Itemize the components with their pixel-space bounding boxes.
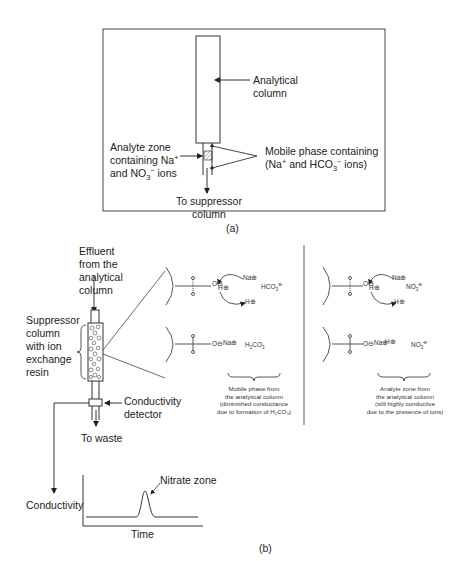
label-line: resin xyxy=(26,366,80,379)
chem-na: Na⊕ xyxy=(392,274,406,282)
subscript: 3 xyxy=(421,345,424,350)
mobile-phase-pointer xyxy=(211,145,257,170)
caption-line: (still highly conductive xyxy=(359,400,451,408)
label-line: Analyte zone xyxy=(110,141,179,154)
text: ions xyxy=(155,167,177,179)
signal-line xyxy=(54,403,89,493)
subscript: 3 xyxy=(262,345,265,350)
chem-na: Na⊕ xyxy=(243,274,257,282)
mobile-phase-label: Mobile phase containing (Na+ and HCO3− i… xyxy=(265,145,378,171)
chem-h-out: H⊕ xyxy=(245,298,256,306)
plot-ylabel: Conductivity xyxy=(26,499,83,512)
label-line: exchange xyxy=(26,353,80,366)
text: HCO xyxy=(261,283,275,290)
chem-h2co3: H2CO3 xyxy=(245,341,265,348)
subscript: 3 xyxy=(416,287,419,292)
caption-line: Mobile phase from xyxy=(214,385,294,393)
resin-structures xyxy=(166,267,430,381)
text: and NO xyxy=(110,167,146,179)
text: NO xyxy=(411,341,421,348)
label-line: from the xyxy=(79,258,123,271)
caption-line: (diminished conductance xyxy=(214,400,294,408)
label-line: column xyxy=(176,208,242,221)
suppressor-column xyxy=(88,276,103,426)
chem-no3: NO3⊖ xyxy=(406,283,422,290)
label-line: column xyxy=(26,327,80,340)
text: ions) xyxy=(341,158,367,170)
to-waste-label: To waste xyxy=(81,432,122,445)
analyte-caption: Analyte zone from the analytical column … xyxy=(359,385,451,415)
label-line: column xyxy=(253,87,298,100)
caption-a: (a) xyxy=(226,222,239,235)
chem-o-minus: O⊖ xyxy=(363,340,374,348)
caption-b: (b) xyxy=(259,542,272,555)
label-line: Analytical xyxy=(253,74,298,87)
label-line: column xyxy=(79,284,123,297)
superscript: ⊖ xyxy=(423,340,427,345)
label-line: and NO3− ions xyxy=(110,167,179,180)
peak-label: Nitrate zone xyxy=(160,474,217,487)
caption-line: the analytical column xyxy=(359,393,451,401)
label-line: To suppressor xyxy=(176,195,242,208)
chem-na: Na⊕ xyxy=(223,339,237,347)
text: and HCO xyxy=(286,158,333,170)
analytical-column-label: Analytical column xyxy=(253,74,298,100)
chem-o-minus: O⊖ xyxy=(212,340,223,348)
label-line: analytical xyxy=(79,271,123,284)
zoom-line-bottom xyxy=(103,354,165,378)
superscript: ⊖ xyxy=(418,282,422,287)
label-line: Suppressor xyxy=(26,314,80,327)
caption-line: due to formation of H₂CO₃) xyxy=(214,408,294,416)
detector-label: Conductivity detector xyxy=(124,395,181,421)
caption-line: Analyte zone from xyxy=(359,385,451,393)
label-line: Effluent xyxy=(79,245,123,258)
chem-h-out: H⊕ xyxy=(394,298,405,306)
text: (Na xyxy=(265,158,282,170)
text: CO xyxy=(252,341,262,348)
caption-line: the analytical column xyxy=(214,393,294,401)
chem-no3: NO3⊖ xyxy=(411,341,427,348)
subscript: 3 xyxy=(275,287,278,292)
chem-h-plus: H⊕ xyxy=(369,284,380,292)
chem-h: H⊕ xyxy=(385,338,396,346)
label-line: Conductivity xyxy=(124,395,181,408)
chem-hco3: HCO3⊖ xyxy=(261,283,282,290)
label-line: containing Na+ xyxy=(110,154,179,167)
label-line: with ion xyxy=(26,340,80,353)
effluent-label: Effluent from the analytical column xyxy=(79,245,123,297)
to-suppressor-label: To suppressor column xyxy=(176,195,242,221)
text: containing Na xyxy=(110,154,174,166)
superscript: ⊖ xyxy=(278,282,282,287)
superscript: + xyxy=(174,153,178,162)
chem-h-plus: H⊕ xyxy=(218,284,229,292)
analyte-zone-label: Analyte zone containing Na+ and NO3− ion… xyxy=(110,141,179,180)
suppressor-label: Suppressor column with ion exchange resi… xyxy=(26,314,80,379)
label-line: (Na+ and HCO3− ions) xyxy=(265,158,378,171)
caption-line: due to the presence of ions) xyxy=(359,408,451,416)
label-line: detector xyxy=(124,408,181,421)
plot-xlabel: Time xyxy=(131,528,154,541)
analytical-column xyxy=(196,36,220,193)
text: NO xyxy=(406,283,416,290)
mobile-phase-caption: Mobile phase from the analytical column … xyxy=(214,385,294,415)
panel-a-frame xyxy=(103,29,385,211)
